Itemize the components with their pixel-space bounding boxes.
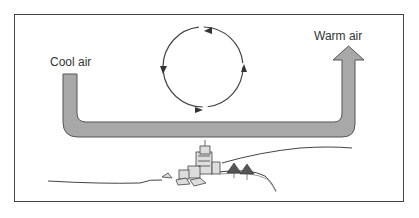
tree-icons xyxy=(227,163,254,180)
cool-air-label: Cool air xyxy=(50,55,91,69)
rotation-cycle-icon xyxy=(160,27,247,113)
hill-line xyxy=(222,147,352,163)
arrowhead-down-icon xyxy=(160,66,167,74)
arrowhead-up-icon xyxy=(241,64,247,72)
air-flow-arrow xyxy=(63,46,364,137)
warm-air-label: Warm air xyxy=(314,29,362,43)
arrowhead-left-icon xyxy=(204,27,212,34)
arrowhead-right-icon xyxy=(195,107,203,113)
ground-line xyxy=(48,180,162,183)
city-icon xyxy=(162,140,220,186)
